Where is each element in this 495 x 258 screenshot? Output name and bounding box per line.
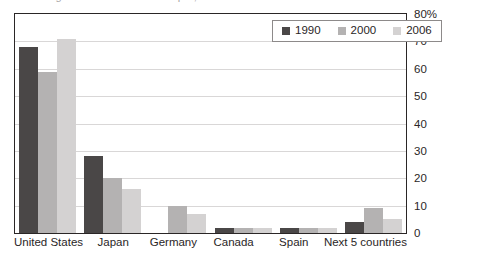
bar-2006-next-5-countries [383, 219, 402, 233]
legend-label: 1990 [295, 25, 321, 37]
bar-series-layer [15, 14, 406, 233]
legend-item-2000: 2000 [338, 25, 377, 37]
chart-legend: 199020002006 [272, 20, 442, 42]
legend-item-1990: 1990 [282, 25, 321, 37]
y-tick-label: 20 [414, 172, 427, 184]
bar-2006-united-states [57, 39, 76, 233]
bar-2000-spain [299, 228, 318, 233]
bar-2000-next-5-countries [364, 208, 383, 233]
y-tick-label: 80% [414, 8, 437, 20]
bar-2006-germany [187, 214, 206, 233]
legend-label: 2006 [406, 25, 432, 37]
x-tick-label: Canada [203, 236, 263, 256]
legend-label: 2000 [351, 25, 377, 37]
y-tick-label: 30 [414, 145, 427, 157]
bar-group [80, 14, 145, 233]
chart-figure: Figure: Share of world output, selected … [0, 0, 495, 258]
bar-2000-germany [168, 206, 187, 233]
y-tick-label: 0 [414, 227, 420, 239]
bar-1990-next-5-countries [345, 222, 364, 233]
x-axis: United StatesJapanGermanyCanadaSpainNext… [14, 236, 407, 256]
y-tick-label: 10 [414, 200, 427, 212]
bar-1990-spain [280, 228, 299, 233]
legend-swatch-2000-icon [338, 27, 346, 35]
bar-2000-japan [103, 178, 122, 233]
x-tick-label: Spain [264, 236, 324, 256]
legend-swatch-1990-icon [282, 27, 290, 35]
bar-group [276, 14, 341, 233]
x-tick-label: Next 5 countries [324, 236, 407, 256]
legend-item-2006: 2006 [393, 25, 432, 37]
x-tick-label: Japan [83, 236, 143, 256]
bar-1990-canada [215, 228, 234, 233]
bar-group [145, 14, 210, 233]
bar-group [341, 14, 406, 233]
bar-1990-united-states [19, 47, 38, 233]
bar-1990-japan [84, 156, 103, 233]
y-tick-label: 60 [414, 63, 427, 75]
bar-2006-canada [253, 228, 272, 233]
y-tick-label: 50 [414, 90, 427, 102]
bar-2000-united-states [38, 72, 57, 234]
bar-2000-canada [234, 228, 253, 233]
legend-swatch-2006-icon [393, 27, 401, 35]
bar-group [211, 14, 276, 233]
x-tick-label: Germany [143, 236, 203, 256]
clipped-title-text: Figure: Share of world output, selected … [46, 0, 301, 2]
bar-2006-spain [318, 228, 337, 233]
bar-2006-japan [122, 189, 141, 233]
y-tick-label: 40 [414, 118, 427, 130]
x-tick-label: United States [14, 236, 83, 256]
bar-group [15, 14, 80, 233]
